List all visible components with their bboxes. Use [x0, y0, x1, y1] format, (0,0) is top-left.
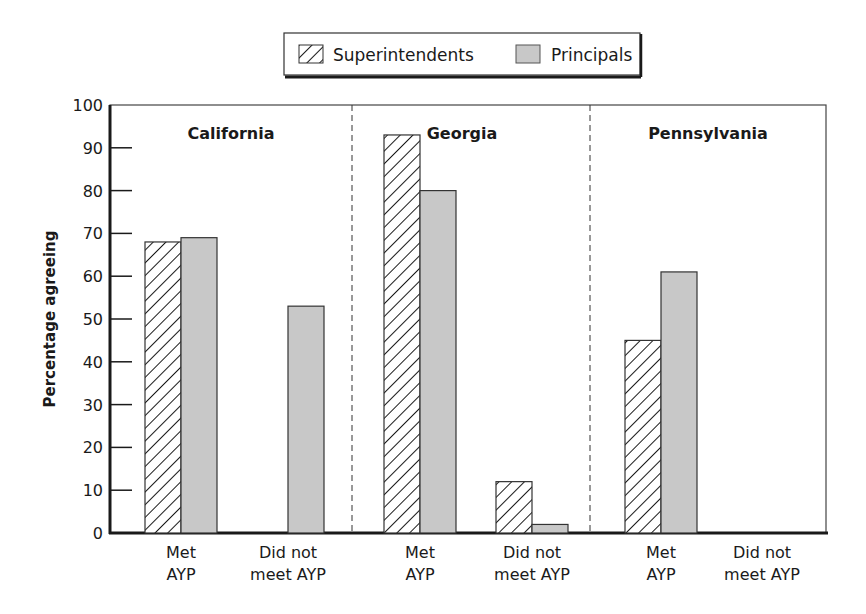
y-tick-label: 30 — [83, 396, 103, 415]
y-tick-label: 90 — [83, 139, 103, 158]
x-category-label: Did not — [733, 543, 791, 562]
y-axis: 0102030405060708090100 — [72, 96, 132, 543]
x-category-label: AYP — [646, 565, 675, 584]
x-category-label: Met — [405, 543, 435, 562]
x-category-label: AYP — [405, 565, 434, 584]
bar-principals — [661, 272, 697, 533]
panel-title-pennsylvania: Pennsylvania — [648, 124, 768, 143]
y-tick-label: 70 — [83, 224, 103, 243]
y-tick-label: 50 — [83, 310, 103, 329]
x-category-label: Did not — [503, 543, 561, 562]
bar-principals — [420, 191, 456, 533]
x-category-label: Met — [166, 543, 196, 562]
bar-superintendents — [496, 482, 532, 533]
bar-superintendents — [625, 340, 661, 533]
y-tick-label: 100 — [72, 96, 103, 115]
y-tick-label: 10 — [83, 481, 103, 500]
y-tick-label: 40 — [83, 353, 103, 372]
panel-title-california: California — [187, 124, 274, 143]
y-tick-label: 80 — [83, 182, 103, 201]
bar-chart: Superintendents Principals 0102030405060… — [0, 0, 866, 614]
y-tick-label: 20 — [83, 438, 103, 457]
legend-label-principals: Principals — [551, 45, 632, 65]
bar-principals — [532, 524, 568, 533]
x-category-label: meet AYP — [724, 565, 800, 584]
bar-principals — [181, 238, 217, 533]
gray-swatch-icon — [516, 45, 540, 63]
y-tick-label: 60 — [83, 267, 103, 286]
x-category-label: AYP — [166, 565, 195, 584]
legend: Superintendents Principals — [284, 33, 641, 77]
y-axis-label: Percentage agreeing — [41, 231, 59, 408]
y-tick-label: 0 — [93, 524, 103, 543]
bars — [145, 135, 697, 533]
bar-superintendents — [145, 242, 181, 533]
bar-superintendents — [384, 135, 420, 533]
x-category-label: meet AYP — [494, 565, 570, 584]
legend-label-superintendents: Superintendents — [333, 45, 474, 65]
x-category-label: Did not — [259, 543, 317, 562]
panel-title-georgia: Georgia — [427, 124, 498, 143]
x-category-label: meet AYP — [250, 565, 326, 584]
x-category-label: Met — [646, 543, 676, 562]
hatched-swatch-icon — [299, 45, 323, 63]
x-axis-labels: MetAYPDid notmeet AYPMetAYPDid notmeet A… — [166, 543, 800, 584]
bar-principals — [288, 306, 324, 533]
